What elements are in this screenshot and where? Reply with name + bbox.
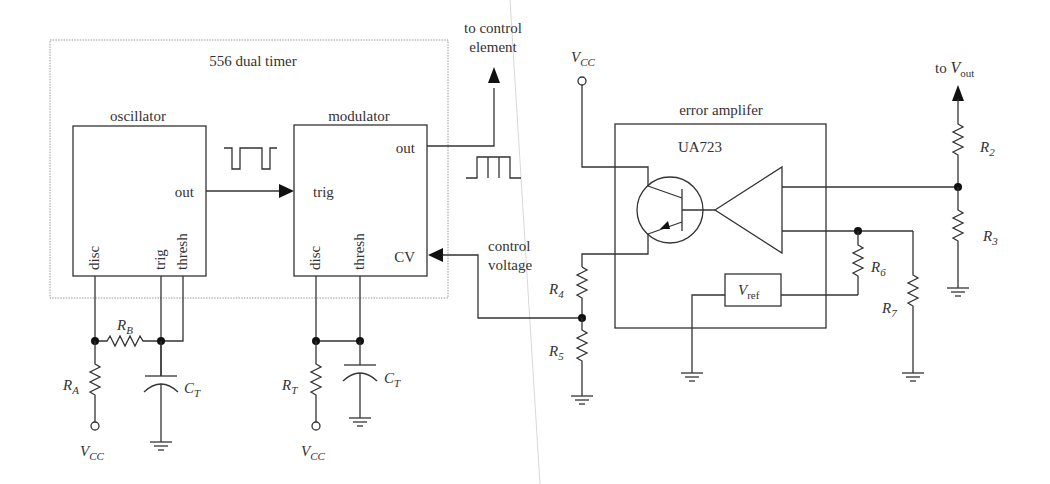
- r6-label: R6: [870, 259, 886, 278]
- amplifier-triangle-icon: [715, 167, 782, 253]
- square-wave-icon: [224, 148, 277, 169]
- to-control-label-line2: element: [469, 39, 517, 55]
- vcc-amp-label: VCC: [571, 49, 596, 68]
- vcc-mod-label: VCC: [301, 443, 326, 462]
- ground-icon: [571, 396, 593, 404]
- oscillator-block: oscillator out disc trig thresh: [73, 108, 206, 276]
- output-divider: to Vout R2 R3: [935, 59, 998, 296]
- oscillator-thresh-pin: thresh: [174, 233, 190, 270]
- ground-icon: [902, 373, 924, 381]
- oscillator-disc-pin: disc: [86, 245, 102, 270]
- vref-label: Vref: [738, 282, 760, 301]
- ct-osc-label: CT: [184, 380, 201, 399]
- vcc-terminal-icon: [578, 77, 586, 85]
- arrow-up-icon: [488, 67, 500, 83]
- error-amplifier-block: error amplifer UA723 VCC Vref: [571, 49, 958, 381]
- r4-label: R4: [548, 281, 564, 300]
- control-voltage-label-line2: voltage: [488, 257, 532, 273]
- ra-label: RA: [62, 377, 79, 396]
- pwm-wave-icon: [466, 157, 521, 178]
- cv-divider: R4 R5: [548, 267, 593, 404]
- ct-mod-label: CT: [384, 370, 401, 389]
- oscillator-label: oscillator: [110, 108, 166, 124]
- to-vout-label: to Vout: [935, 59, 974, 79]
- arrow-left-icon: [428, 248, 443, 262]
- error-amplifier-label: error amplifer: [679, 102, 763, 118]
- rt-label: RT: [281, 377, 298, 396]
- resistor-r7: [908, 231, 918, 373]
- oscillator-trig-pin: trig: [152, 249, 168, 270]
- ground-icon: [947, 288, 969, 296]
- modulator-block: modulator out trig disc thresh CV: [294, 108, 427, 276]
- dual-timer-block: 556 dual timer: [50, 40, 448, 298]
- modulator-timing-network: RT VCC CT: [281, 276, 401, 462]
- resistor-ra: [90, 341, 100, 422]
- dual-timer-border: [50, 40, 448, 298]
- vref-ground-wire: [692, 295, 725, 373]
- reference-divider: R6 R7: [853, 227, 924, 381]
- resistor-r6: [853, 231, 863, 295]
- r3-label: R3: [982, 228, 998, 247]
- ground-icon: [150, 442, 172, 450]
- rb-label: RB: [116, 317, 133, 336]
- modulator-output-wire: [427, 88, 494, 146]
- circuit-diagram: 556 dual timer oscillator out disc trig …: [0, 0, 1050, 484]
- ground-icon: [349, 418, 371, 426]
- oscillator-timing-network: RB RA VCC CT: [62, 276, 201, 462]
- ground-icon: [681, 373, 703, 381]
- modulator-cv-pin: CV: [394, 249, 415, 265]
- modulator-trig-pin: trig: [313, 184, 334, 200]
- arrow-up-icon: [952, 85, 964, 101]
- control-voltage-label-line1: control: [488, 238, 531, 254]
- resistor-rb: [95, 336, 161, 346]
- resistor-r2: [953, 99, 963, 187]
- modulator-label: modulator: [328, 108, 390, 124]
- arrow-right-icon: [279, 184, 294, 198]
- vcc-terminal-icon: [91, 422, 99, 430]
- resistor-r3: [953, 187, 963, 288]
- oscillator-out-pin: out: [175, 184, 195, 200]
- resistor-r5: [577, 318, 587, 396]
- chip-label: UA723: [678, 139, 722, 155]
- resistor-r4: [577, 267, 587, 318]
- resistor-rt: [311, 341, 321, 422]
- r7-label: R7: [881, 300, 897, 319]
- modulator-thresh-pin: thresh: [351, 233, 367, 270]
- modulator-out-pin: out: [396, 140, 416, 156]
- vcc-terminal-icon: [312, 422, 320, 430]
- r5-label: R5: [548, 343, 564, 362]
- r2-label: R2: [979, 139, 995, 158]
- vcc-osc-label: VCC: [80, 443, 105, 462]
- modulator-disc-pin: disc: [307, 245, 323, 270]
- to-control-label-line1: to control: [464, 20, 522, 36]
- dual-timer-title: 556 dual timer: [209, 53, 296, 69]
- npn-transistor-icon: [637, 177, 715, 243]
